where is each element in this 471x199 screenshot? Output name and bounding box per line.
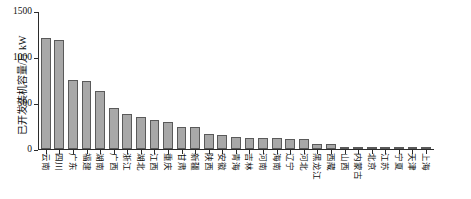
y-axis-tick-label: 0 [27,145,32,155]
bar [190,127,200,149]
bar-slot [188,12,202,149]
x-axis-tick-label: 河南 [259,153,268,171]
x-axis-tick-label: 西藏 [327,153,336,171]
bar-slot [66,12,80,149]
bar [177,127,187,149]
x-axis-tick-label: 云南 [42,153,51,171]
bar-slot [311,12,325,149]
x-axis-tick-label: 江苏 [381,153,390,171]
x-axis-label-slot: 四川 [53,153,67,199]
y-axis-tick-mark [34,12,38,13]
x-axis-label-slot: 海南 [270,153,284,199]
bar [136,117,146,149]
bar-slot [297,12,311,149]
bar-slot [80,12,94,149]
x-axis-label-slot: 河南 [256,153,270,199]
x-axis-label-slot: 重庆 [161,153,175,199]
bar-slot [107,12,121,149]
x-axis-tick-label: 陕西 [204,153,213,171]
y-axis-tick-mark [34,104,38,105]
y-axis-tick-mark [34,150,38,151]
x-axis-label-slot: 新疆 [188,153,202,199]
bar-slot [365,12,379,149]
bar-slot [202,12,216,149]
bar [109,108,119,149]
bar [353,147,363,149]
bar [245,138,255,149]
x-axis-tick-label: 北京 [367,153,376,171]
x-axis-label-slot: 黑龙江 [311,153,325,199]
bar [163,122,173,149]
x-axis-label-slot: 天津 [406,153,420,199]
bar-slot [256,12,270,149]
x-axis-label-slot: 上海 [419,153,433,199]
bar [122,114,132,149]
bar [258,138,268,149]
x-axis-tick-label: 湖北 [137,153,146,171]
bar [82,81,92,149]
x-axis-tick-label: 内蒙古 [354,153,363,180]
bar-slot [134,12,148,149]
bar [217,135,227,149]
x-axis-tick-label: 宁夏 [395,153,404,171]
x-axis-tick-label: 辽宁 [286,153,295,171]
x-axis-label-slot: 吉林 [243,153,257,199]
plot-area: 050010001500 [38,12,434,150]
x-axis-tick-label: 湖南 [96,153,105,171]
x-axis-tick-label: 山西 [340,153,349,171]
bar-chart: 已开发装机容量/万 kW 050010001500 云南四川广东福建湖南广西浙江… [0,0,471,199]
x-axis-tick-label: 浙江 [123,153,132,171]
x-axis-label-slot: 广东 [66,153,80,199]
bar [408,147,418,149]
bar-slot [93,12,107,149]
x-axis-label-slot: 山西 [338,153,352,199]
bar-slot [419,12,433,149]
bar [299,139,309,149]
bar-slot [120,12,134,149]
bar [150,120,160,149]
bar [312,144,322,149]
x-axis-label-slot: 辽宁 [283,153,297,199]
bar-slot [378,12,392,149]
x-axis-label-slot: 江苏 [378,153,392,199]
x-axis-tick-label: 四川 [55,153,64,171]
x-axis-label-slot: 陕西 [202,153,216,199]
x-axis-tick-label: 广西 [109,153,118,171]
bar-slot [161,12,175,149]
x-axis-label-slot: 西藏 [324,153,338,199]
bar-slot [148,12,162,149]
bar-slot [392,12,406,149]
bar [367,147,377,149]
bar-slot [39,12,53,149]
x-axis-tick-label: 天津 [408,153,417,171]
bar-slot [351,12,365,149]
bar [231,137,241,149]
bar-slot [175,12,189,149]
x-axis-label-slot: 宁夏 [392,153,406,199]
bar-slot [338,12,352,149]
bar [421,147,431,149]
x-axis-label-slot: 广西 [107,153,121,199]
y-axis-tick-label: 500 [18,99,32,109]
x-axis-tick-label: 甘肃 [177,153,186,171]
x-axis-tick-label: 海南 [272,153,281,171]
bar [380,147,390,149]
bar [68,80,78,149]
bar [54,40,64,149]
y-axis-tick-mark [34,58,38,59]
bar [394,147,404,149]
x-axis-label-slot: 青海 [229,153,243,199]
x-axis-label-slot: 河北 [297,153,311,199]
x-axis-tick-label: 吉林 [245,153,254,171]
bar [326,144,336,149]
x-axis-label-slot: 福建 [80,153,94,199]
x-axis-label-slot: 江西 [148,153,162,199]
x-axis-label-slot: 湖北 [134,153,148,199]
y-axis-tick-label: 1500 [13,7,32,17]
x-axis-label-slot: 内蒙古 [351,153,365,199]
y-axis-title: 已开发装机容量/万 kW [14,11,29,161]
x-axis-label-slot: 甘肃 [175,153,189,199]
bar-slot [229,12,243,149]
bar-slot [324,12,338,149]
bar [340,147,350,149]
